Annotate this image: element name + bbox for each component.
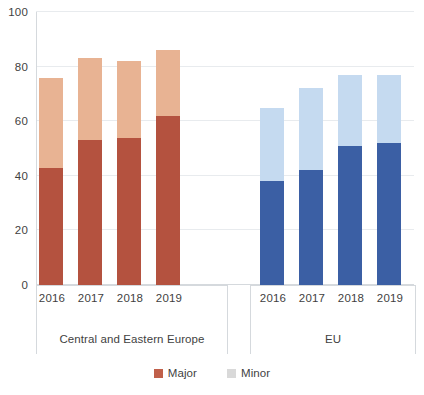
bar-segment-minor — [78, 58, 102, 140]
x-axis-tick-2018: 2018 — [338, 292, 364, 304]
bar-segment-minor — [377, 75, 401, 143]
x-axis-tick-2019: 2019 — [156, 292, 182, 304]
group-label-central-and-eastern-europe: Central and Eastern Europe — [37, 333, 227, 345]
group-label-eu: EU — [251, 333, 415, 345]
bar-segment-major — [156, 116, 180, 285]
bar-segment-major — [377, 143, 401, 285]
y-axis-tick-40: 40 — [15, 170, 28, 182]
bar-central-and-eastern-europe-2016 — [39, 12, 63, 285]
bar-segment-major — [260, 181, 284, 285]
bar-segment-major — [117, 138, 141, 285]
y-axis-tick-100: 100 — [8, 6, 28, 18]
legend-swatch-major-icon — [154, 369, 163, 378]
bar-segment-minor — [39, 78, 63, 168]
y-axis-tick-0: 0 — [21, 279, 28, 291]
bar-segment-minor — [156, 50, 180, 116]
legend-item-minor: Minor — [227, 367, 270, 379]
legend-swatch-minor-icon — [227, 369, 236, 378]
y-axis-tick-80: 80 — [15, 61, 28, 73]
bar-central-and-eastern-europe-2017 — [78, 12, 102, 285]
legend-label-minor: Minor — [241, 367, 270, 379]
bar-segment-minor — [338, 75, 362, 146]
bar-segment-minor — [260, 108, 284, 182]
bar-eu-2019 — [377, 12, 401, 285]
chart-legend: Major Minor — [0, 367, 424, 379]
bar-segment-minor — [299, 88, 323, 170]
stacked-bar-chart: 020406080100 Central and Eastern Europe … — [0, 0, 424, 395]
y-axis-tick-60: 60 — [15, 115, 28, 127]
legend-item-major: Major — [154, 367, 197, 379]
bar-segment-minor — [117, 61, 141, 137]
bar-segment-major — [299, 170, 323, 285]
bar-central-and-eastern-europe-2019 — [156, 12, 180, 285]
x-axis-tick-2016: 2016 — [260, 292, 286, 304]
category-axis-central-and-eastern-europe: Central and Eastern Europe 2016201720182… — [36, 285, 228, 354]
bar-eu-2017 — [299, 12, 323, 285]
x-axis-tick-2016: 2016 — [39, 292, 65, 304]
y-axis-labels: 020406080100 — [0, 0, 32, 297]
bar-central-and-eastern-europe-2018 — [117, 12, 141, 285]
x-axis-tick-2019: 2019 — [377, 292, 403, 304]
x-axis-tick-2017: 2017 — [78, 292, 104, 304]
bar-segment-major — [78, 140, 102, 285]
category-axis-eu: EU 2016201720182019 — [250, 285, 416, 354]
plot-area — [36, 12, 414, 285]
x-axis-tick-2018: 2018 — [117, 292, 143, 304]
bar-eu-2018 — [338, 12, 362, 285]
bar-eu-2016 — [260, 12, 284, 285]
x-axis-tick-2017: 2017 — [299, 292, 325, 304]
legend-label-major: Major — [168, 367, 197, 379]
bar-segment-major — [39, 168, 63, 285]
bar-segment-major — [338, 146, 362, 285]
y-axis-tick-20: 20 — [15, 224, 28, 236]
y-axis-line — [36, 12, 37, 285]
